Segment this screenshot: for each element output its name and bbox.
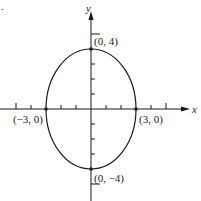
point-left bbox=[44, 107, 48, 111]
point-label-bottom: (0, −4) bbox=[94, 172, 124, 185]
point-label-left: (−3, 0) bbox=[13, 113, 43, 126]
point-top bbox=[89, 47, 93, 51]
point-right bbox=[134, 107, 138, 111]
ellipse-figure: y x (0, 4) (−3, 0) (3, 0) (0, −4) . bbox=[0, 0, 201, 201]
y-axis-label: y bbox=[85, 2, 91, 14]
stray-dot: . bbox=[1, 0, 4, 12]
point-bottom bbox=[89, 167, 93, 171]
x-axis-label: x bbox=[191, 103, 197, 115]
x-axis-arrow-icon bbox=[181, 107, 190, 112]
point-label-top: (0, 4) bbox=[94, 35, 118, 48]
point-label-right: (3, 0) bbox=[139, 113, 163, 126]
